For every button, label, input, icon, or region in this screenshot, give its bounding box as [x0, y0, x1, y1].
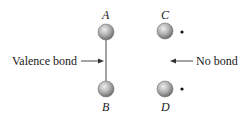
valence-bond-label: Valence bond [12, 55, 77, 67]
atom-c-label: C [161, 9, 169, 21]
valence-bond-arrowhead-icon [98, 59, 104, 64]
atom-b-label: B [102, 101, 109, 113]
atom-c-sphere [157, 23, 173, 39]
atom-b-sphere [98, 81, 114, 97]
atom-d-sphere [157, 81, 173, 97]
no-bond-label: No bond [196, 55, 238, 67]
atom-d-label: D [161, 101, 170, 113]
electron-dot-c-icon [180, 30, 183, 33]
atom-a-sphere [98, 24, 114, 40]
electron-dot-d-icon [180, 87, 183, 90]
no-bond-arrowhead-icon [170, 59, 176, 64]
atom-a-label: A [102, 9, 109, 21]
